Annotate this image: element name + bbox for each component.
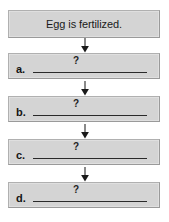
down-arrow-icon bbox=[80, 124, 89, 139]
node-step-d-question-mark: ? bbox=[1, 185, 151, 195]
down-arrow-icon bbox=[80, 81, 89, 96]
node-step-c-question-mark: ? bbox=[1, 142, 151, 152]
down-arrow-icon bbox=[80, 167, 89, 182]
down-arrow-icon bbox=[80, 38, 89, 53]
flowchart-node-start: Egg is fertilized. bbox=[8, 10, 160, 38]
flowchart-node-step-b[interactable]: b. ? bbox=[8, 96, 160, 122]
flowchart-diagram: Egg is fertilized. a. ? b. ? bbox=[0, 0, 169, 222]
node-step-b-question-mark: ? bbox=[1, 99, 151, 109]
flowchart-node-step-d[interactable]: d. ? bbox=[8, 182, 160, 208]
node-step-a-answer-line[interactable] bbox=[33, 72, 147, 73]
flowchart-node-step-c[interactable]: c. ? bbox=[8, 139, 160, 165]
node-step-a-question-mark: ? bbox=[1, 56, 151, 66]
node-start-text: Egg is fertilized. bbox=[46, 18, 122, 30]
node-step-d-answer-line[interactable] bbox=[33, 201, 147, 202]
flowchart-node-step-a[interactable]: a. ? bbox=[8, 53, 160, 79]
node-step-b-answer-line[interactable] bbox=[33, 115, 147, 116]
node-step-c-answer-line[interactable] bbox=[33, 158, 147, 159]
